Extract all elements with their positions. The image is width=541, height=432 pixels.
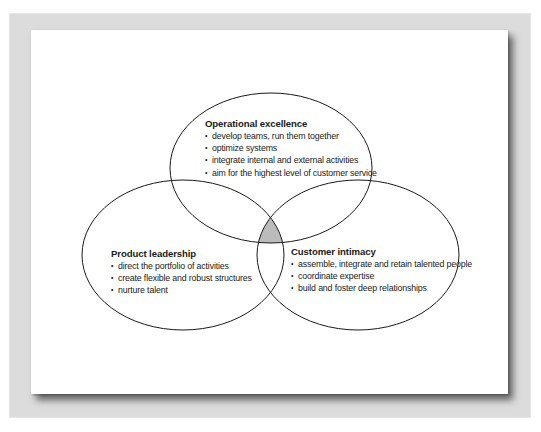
bullet-icon: • (111, 260, 118, 272)
bullet-icon: • (205, 154, 212, 166)
set-title: Operational excellence (205, 118, 377, 130)
set-title: Customer intimacy (291, 246, 472, 258)
bullet-icon: • (111, 272, 118, 284)
bullet-icon: • (205, 142, 212, 154)
list-item: •optimize systems (205, 142, 377, 154)
set-title: Product leadership (111, 248, 252, 260)
bullet-icon: • (291, 282, 298, 294)
operational-excellence-block: Operational excellence •develop teams, r… (205, 118, 377, 179)
item-list: •assemble, integrate and retain talented… (291, 258, 472, 295)
venn-diagram (0, 0, 541, 432)
list-item: •build and foster deep relationships (291, 282, 472, 294)
customer-intimacy-block: Customer intimacy •assemble, integrate a… (291, 246, 472, 295)
list-item: •nurture talent (111, 284, 252, 296)
list-item: •develop teams, run them together (205, 130, 377, 142)
list-item: •aim for the highest level of customer s… (205, 167, 377, 179)
list-item: •direct the portfolio of activities (111, 260, 252, 272)
bullet-icon: • (205, 167, 212, 179)
list-item: •create flexible and robust structures (111, 272, 252, 284)
item-list: •direct the portfolio of activities •cre… (111, 260, 252, 297)
product-leadership-block: Product leadership •direct the portfolio… (111, 248, 252, 297)
list-item: •coordinate expertise (291, 270, 472, 282)
item-list: •develop teams, run them together •optim… (205, 130, 377, 179)
bullet-icon: • (205, 130, 212, 142)
list-item: •assemble, integrate and retain talented… (291, 258, 472, 270)
bullet-icon: • (291, 270, 298, 282)
bullet-icon: • (291, 258, 298, 270)
list-item: •integrate internal and external activit… (205, 154, 377, 166)
bullet-icon: • (111, 284, 118, 296)
